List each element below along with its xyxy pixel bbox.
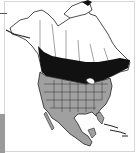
range-map	[0, 0, 138, 153]
florida-peninsula	[96, 112, 104, 124]
caribbean-islands	[104, 124, 128, 136]
us-mexico-range	[38, 72, 112, 146]
yucatan-peninsula	[88, 128, 96, 138]
